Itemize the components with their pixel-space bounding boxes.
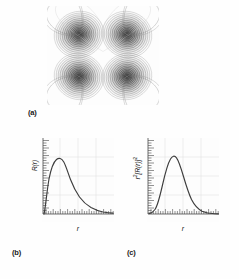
- panel-b-chart-svg: [42, 138, 114, 222]
- panel-b-plot-area: [42, 138, 114, 222]
- panel-a-contour-plot: [47, 6, 159, 105]
- panel-c-x-axis-label: r: [147, 225, 219, 232]
- panel-b-label: (b): [12, 248, 21, 257]
- panel-c-radial-distribution-plot: r2[R(r)]2 r (c): [133, 136, 221, 234]
- panel-c-plot-area: [147, 138, 219, 222]
- panel-c-label: (c): [127, 248, 136, 257]
- panel-c-ylabel-exp1: 2: [133, 174, 138, 177]
- panel-c-ylabel-r: r: [134, 177, 141, 179]
- panel-c-y-axis-label: r2[R(r)]2: [133, 146, 141, 190]
- orbital-contour-icon: [47, 6, 159, 105]
- panel-b-x-axis-label: r: [42, 225, 114, 232]
- panel-b-y-axis-label: R(r): [31, 144, 38, 188]
- panel-a-label: (a): [28, 108, 37, 117]
- panel-b-radial-function-plot: R(r) r (b): [28, 136, 116, 234]
- panel-c-chart-svg: [147, 138, 219, 222]
- panel-c-ylabel-exp2: 2: [133, 157, 138, 160]
- panel-c-ylabel-bracket: [R(r)]: [134, 160, 141, 175]
- figure-root: (a): [0, 0, 239, 279]
